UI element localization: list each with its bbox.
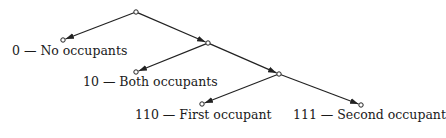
- leaf-label-both-occupants: 10 — Both occupants: [83, 76, 218, 89]
- leaf-label-first-occupant: 110 — First occupant: [135, 109, 271, 122]
- edge-n1-n10: [139, 44, 206, 71]
- edge-root-n1: [138, 13, 205, 42]
- tree-node-n0: [61, 38, 65, 42]
- tree-node-n110: [200, 102, 204, 106]
- tree-nodes: [61, 10, 363, 107]
- leaf-label-no-occupants: 0 — No occupants: [12, 45, 127, 58]
- edge-n11-n111: [281, 75, 358, 104]
- edge-root-n0: [66, 13, 134, 39]
- tree-edges: [66, 13, 359, 104]
- edge-n1-n11: [210, 44, 277, 73]
- leaf-label-second-occupant: 111 — Second occupant: [293, 109, 446, 122]
- tree-node-n11: [277, 72, 281, 76]
- tree-node-n1: [206, 41, 210, 45]
- tree-node-root: [134, 10, 138, 14]
